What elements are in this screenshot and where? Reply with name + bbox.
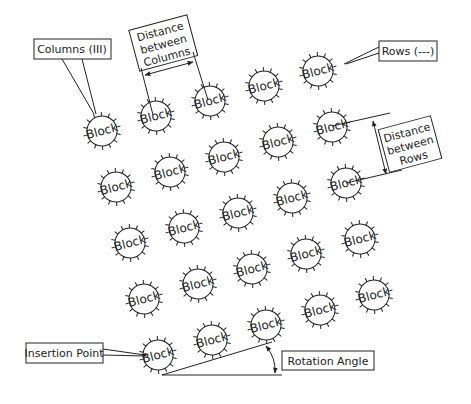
block-symbol: Block xyxy=(269,175,315,221)
block-symbol: Block xyxy=(121,276,167,322)
block-array: BlockBlockBlockBlockBlockBlockBlockBlock… xyxy=(79,48,397,378)
block-symbol: Block xyxy=(201,134,247,180)
block-symbol: Block xyxy=(241,63,287,109)
block-symbol: Block xyxy=(93,164,139,210)
block-symbol: Block xyxy=(309,104,355,150)
block-symbol: Block xyxy=(337,216,383,262)
rotation-angle-label: Rotation Angle xyxy=(288,355,369,368)
block-symbol: Block xyxy=(187,78,233,124)
block-symbol: Block xyxy=(229,246,275,292)
block-symbol: Block xyxy=(283,231,329,277)
block-symbol: Block xyxy=(215,190,261,236)
columns-label: Columns (III) xyxy=(37,43,107,56)
insertion-point-callout: Insertion Point xyxy=(24,343,146,363)
array-diagram: BlockBlockBlockBlockBlockBlockBlockBlock… xyxy=(0,0,471,404)
block-symbol: Block xyxy=(295,48,341,94)
block-symbol: Block xyxy=(297,287,343,333)
block-symbol: Block xyxy=(175,261,221,307)
block-symbol: Block xyxy=(243,302,289,348)
block-symbol: Block xyxy=(147,149,193,195)
block-symbol: Block xyxy=(161,205,207,251)
block-symbol: Block xyxy=(79,108,125,154)
block-symbol: Block xyxy=(189,317,235,363)
block-symbol: Block xyxy=(107,220,153,266)
rotation-angle-indicator: Rotation Angle xyxy=(162,342,374,375)
insertion-point-label: Insertion Point xyxy=(24,347,104,360)
columns-callout: Columns (III) xyxy=(34,39,111,114)
block-symbol: Block xyxy=(133,93,179,139)
block-symbol: Block xyxy=(351,272,397,318)
rows-callout: Rows (---) xyxy=(344,41,437,64)
block-symbol: Block xyxy=(255,119,301,165)
rows-label: Rows (---) xyxy=(382,45,435,58)
